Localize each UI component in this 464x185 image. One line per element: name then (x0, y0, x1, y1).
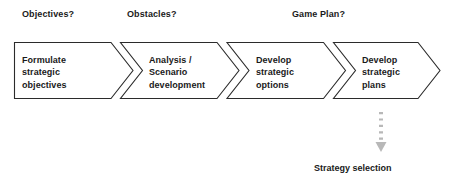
dotted-down-arrow-icon (376, 112, 387, 152)
chevron-label-stage-3: Develop strategic options (256, 54, 294, 91)
question-label-objectives: Objectives? (22, 9, 74, 19)
chevron-label-stage-1: Formulate strategic objectives (22, 54, 67, 91)
chevron-label-stage-2: Analysis / Scenario development (149, 54, 205, 91)
chevron-label-stage-4: Develop strategic plans (362, 54, 400, 91)
strategy-selection-label: Strategy selection (314, 163, 392, 173)
process-flow-diagram (0, 0, 464, 185)
question-label-obstacles: Obstacles? (127, 9, 177, 19)
question-label-game-plan: Game Plan? (292, 9, 345, 19)
